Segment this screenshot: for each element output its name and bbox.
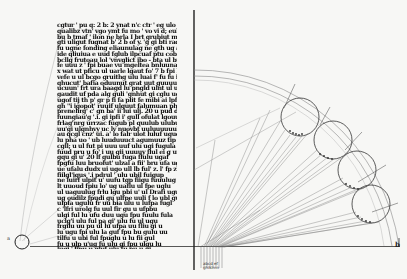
manuscript-text-column: cgtur ' pu q: 2 b: 2 ynat n'c ctr ' eg u… bbox=[57, 22, 177, 249]
manuscript-page: cgtur ' pu q: 2 b: 2 ynat n'c ctr ' eg u… bbox=[0, 0, 407, 279]
small-circle-left bbox=[15, 235, 29, 249]
origin-labels: abcd ef ghiklmn bbox=[203, 262, 219, 270]
diagram-label-right: b bbox=[395, 240, 400, 249]
diagram-label-left: a bbox=[7, 235, 10, 241]
text-line: lugi ' fipu u gluf ulu fu pu u gi bbox=[57, 246, 177, 249]
circle-1 bbox=[281, 98, 319, 136]
origin-label: ghiklmn bbox=[203, 266, 219, 270]
